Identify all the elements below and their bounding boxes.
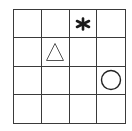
cell-r3-c0	[14, 95, 42, 123]
circle-icon	[100, 69, 122, 91]
cell-r0-c2	[70, 10, 98, 38]
cell-r0-c0	[14, 10, 42, 38]
cell-r2-c3	[97, 67, 125, 95]
cell-r2-c2	[70, 67, 98, 95]
cell-r1-c3	[97, 38, 125, 66]
triangle-icon	[45, 42, 65, 62]
cell-r0-c3	[97, 10, 125, 38]
cell-r1-c0	[14, 38, 42, 66]
cell-r3-c1	[42, 95, 70, 123]
asterisk-star-icon	[75, 17, 91, 31]
cell-r2-c0	[14, 67, 42, 95]
grid-board	[13, 9, 126, 124]
cell-r1-c2	[70, 38, 98, 66]
cell-r2-c1	[42, 67, 70, 95]
cell-r0-c1	[42, 10, 70, 38]
cell-r3-c3	[97, 95, 125, 123]
cell-r1-c1	[42, 38, 70, 66]
cell-r3-c2	[70, 95, 98, 123]
